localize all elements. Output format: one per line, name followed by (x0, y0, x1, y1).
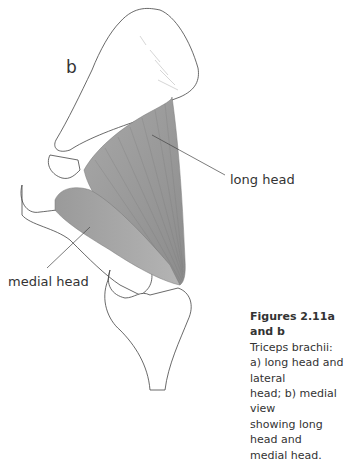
figure-panel-letter: b (66, 57, 77, 77)
humerus-head (48, 155, 80, 178)
caption-title: Figures 2.11a and b (250, 309, 347, 340)
caption-line: Triceps brachii: (250, 340, 347, 355)
caption-line: a) long head and lateral (250, 355, 347, 386)
label-long-head: long head (230, 172, 295, 187)
caption-line: medial head. (250, 448, 347, 463)
caption-line: head; b) medial view (250, 386, 347, 417)
caption-line: showing long head and (250, 417, 347, 448)
label-medial-head: medial head (8, 274, 89, 289)
figure-caption: Figures 2.11a and b Triceps brachii: a) … (250, 309, 347, 463)
